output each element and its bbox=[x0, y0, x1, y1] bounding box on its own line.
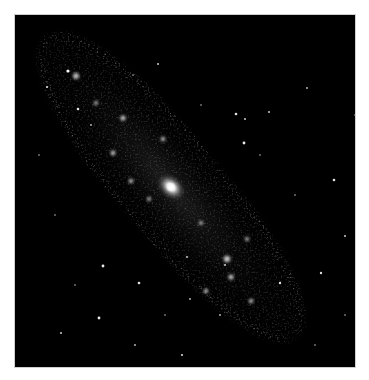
star bbox=[38, 154, 40, 156]
star bbox=[164, 314, 166, 316]
star bbox=[259, 154, 261, 156]
star bbox=[46, 86, 48, 88]
star bbox=[98, 317, 101, 320]
star bbox=[294, 194, 296, 196]
star bbox=[333, 179, 336, 182]
star bbox=[134, 344, 136, 346]
star bbox=[186, 256, 188, 258]
star bbox=[54, 214, 56, 216]
star bbox=[219, 314, 221, 316]
star bbox=[320, 272, 322, 274]
star bbox=[77, 108, 80, 111]
star bbox=[224, 264, 226, 266]
star bbox=[66, 69, 69, 72]
star bbox=[200, 104, 202, 106]
galaxy-disk bbox=[15, 15, 355, 367]
star bbox=[314, 344, 316, 346]
star bbox=[132, 74, 134, 76]
star bbox=[181, 354, 183, 356]
star bbox=[102, 265, 105, 268]
star bbox=[344, 235, 346, 237]
star bbox=[306, 87, 308, 89]
galaxy-image bbox=[14, 14, 356, 368]
star bbox=[138, 282, 141, 285]
star bbox=[157, 63, 159, 65]
star bbox=[344, 314, 346, 316]
star bbox=[244, 118, 246, 120]
star bbox=[60, 332, 62, 334]
star bbox=[189, 298, 191, 300]
star bbox=[90, 124, 92, 126]
star bbox=[74, 284, 76, 286]
star bbox=[243, 142, 246, 145]
star bbox=[279, 282, 281, 284]
star bbox=[268, 111, 270, 113]
star bbox=[235, 113, 238, 116]
galaxy-svg bbox=[15, 15, 355, 367]
